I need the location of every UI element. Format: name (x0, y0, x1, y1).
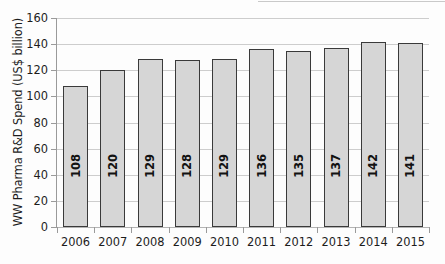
bar-value-label: 129 (217, 154, 231, 178)
bar[interactable]: 137 (324, 48, 349, 227)
x-axis-tick-mark (169, 227, 170, 233)
y-axis-tick-label: 0 (12, 220, 48, 234)
bar[interactable]: 120 (100, 70, 125, 227)
bar[interactable]: 129 (212, 59, 237, 228)
x-axis-tick-mark (94, 227, 95, 233)
bar[interactable]: 142 (361, 42, 386, 227)
bar[interactable]: 108 (63, 86, 88, 227)
bar-chart: WW Pharma R&D Spend (US$ billion) 020406… (0, 0, 445, 264)
plot-area: 108120129128129136135137142141 (57, 18, 429, 227)
bar[interactable]: 141 (398, 43, 423, 227)
y-axis-tick-label-wrap: 140 (8, 37, 48, 51)
bar-value-label: 137 (329, 154, 343, 178)
y-axis-tick-label-wrap: 120 (8, 63, 48, 77)
bar-value-label: 128 (180, 154, 194, 178)
x-axis-tick-mark (429, 227, 430, 233)
bar-value-label: 108 (69, 154, 83, 178)
bar-value-label: 142 (366, 154, 380, 178)
x-axis-tick-mark (355, 227, 356, 233)
y-axis-tick-label: 160 (12, 11, 48, 25)
bar-value-label: 129 (143, 154, 157, 178)
bar[interactable]: 129 (138, 59, 163, 228)
x-axis-tick-mark (57, 227, 58, 233)
y-axis-tick-label-wrap: 0 (8, 220, 48, 234)
y-axis-tick-label: 100 (12, 89, 48, 103)
y-axis-tick-label: 80 (12, 116, 48, 130)
bar[interactable]: 136 (249, 49, 274, 227)
x-axis-tick-mark (206, 227, 207, 233)
gridline (57, 18, 429, 19)
y-axis-tick-label-wrap: 100 (8, 89, 48, 103)
bar[interactable]: 128 (175, 60, 200, 227)
x-axis-tick-label: 2015 (386, 234, 434, 250)
y-axis-tick-label-wrap: 80 (8, 116, 48, 130)
x-axis-tick-mark (131, 227, 132, 233)
y-axis-tick-label: 140 (12, 37, 48, 51)
x-axis-tick-mark (280, 227, 281, 233)
y-axis-tick-label: 120 (12, 63, 48, 77)
bar-value-label: 136 (255, 154, 269, 178)
y-axis-tick-label-wrap: 40 (8, 168, 48, 182)
y-axis-tick-label: 40 (12, 168, 48, 182)
bar-value-label: 120 (106, 154, 120, 178)
y-axis-tick-label-wrap: 160 (8, 11, 48, 25)
bar-value-label: 141 (403, 154, 417, 178)
x-axis-tick-mark (392, 227, 393, 233)
y-axis-tick-label: 20 (12, 194, 48, 208)
bar[interactable]: 135 (286, 51, 311, 227)
x-axis-tick-mark (317, 227, 318, 233)
bar-value-label: 135 (292, 154, 306, 178)
x-axis-tick-mark (243, 227, 244, 233)
y-axis-tick-label-wrap: 60 (8, 142, 48, 156)
y-axis-tick-label: 60 (12, 142, 48, 156)
y-axis-tick-label-wrap: 20 (8, 194, 48, 208)
